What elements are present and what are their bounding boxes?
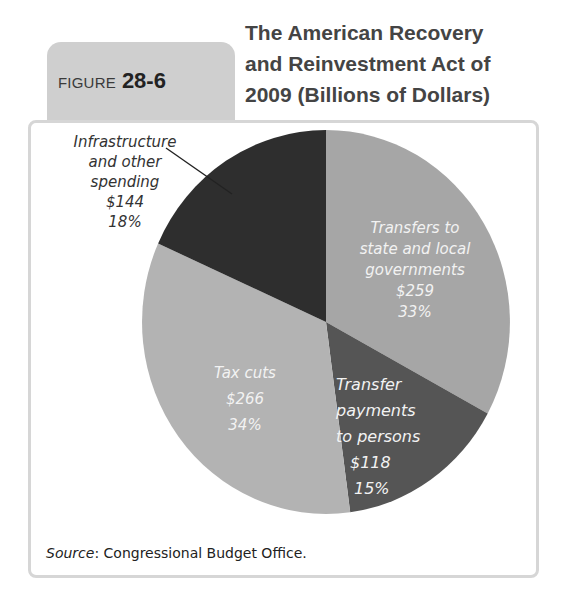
label-percent: 33%: [335, 302, 495, 323]
label-value: $144: [40, 192, 210, 212]
label-line: Transfer: [336, 372, 446, 398]
label-value: $259: [335, 281, 495, 302]
label-persons: Transfer payments to persons $118 15%: [336, 372, 446, 502]
label-percent: 34%: [200, 412, 290, 438]
label-line: Infrastructure: [40, 132, 210, 152]
label-line: state and local: [335, 239, 495, 260]
source-note: Source: Congressional Budget Office.: [46, 545, 307, 561]
label-percent: 15%: [336, 476, 446, 502]
label-infrastructure: Infrastructure and other spending $144 1…: [40, 132, 210, 232]
label-tax-cuts: Tax cuts $266 34%: [200, 360, 290, 438]
source-text: : Congressional Budget Office.: [94, 545, 306, 561]
label-line: payments: [336, 398, 446, 424]
label-percent: 18%: [40, 212, 210, 232]
label-value: $266: [200, 386, 290, 412]
label-line: Tax cuts: [200, 360, 290, 386]
label-state-local: Transfers to state and local governments…: [335, 218, 495, 323]
label-line: to persons: [336, 424, 446, 450]
label-line: Transfers to: [335, 218, 495, 239]
label-line: governments: [335, 260, 495, 281]
label-line: spending: [40, 172, 210, 192]
label-value: $118: [336, 450, 446, 476]
label-line: and other: [40, 152, 210, 172]
source-prefix: Source: [46, 545, 94, 561]
